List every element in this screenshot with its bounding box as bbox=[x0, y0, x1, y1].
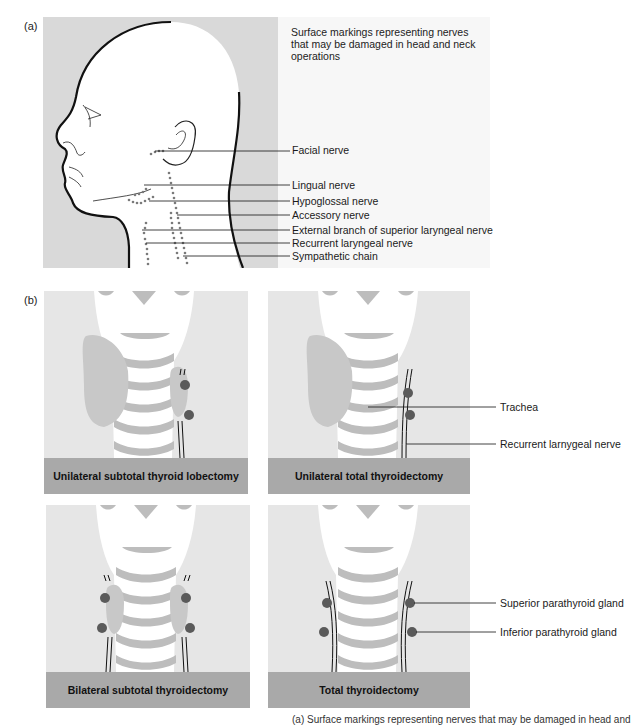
diagram-title-bar: Bilateral subtotal thyroidectomy bbox=[46, 672, 250, 708]
diagram-title-bar: Unilateral total thyroidectomy bbox=[268, 458, 470, 494]
label-lingual-nerve: Lingual nerve bbox=[292, 179, 355, 191]
panel-b-tag: (b) bbox=[24, 294, 37, 306]
panel-a-description: Surface markings representing nerves tha… bbox=[291, 26, 481, 62]
diagram-title-bar: Unilateral subtotal thyroid lobectomy bbox=[44, 458, 248, 494]
diagram-bilateral-subtotal: Bilateral subtotal thyroidectomy bbox=[46, 505, 250, 708]
figure-caption: (a) Surface markings representing nerves… bbox=[292, 714, 631, 725]
diagram-title: Total thyroidectomy bbox=[319, 684, 419, 696]
label-hypoglossal-nerve: Hypoglossal nerve bbox=[292, 195, 378, 207]
panel-a-tag: (a) bbox=[24, 20, 37, 32]
diagram-title: Unilateral total thyroidectomy bbox=[295, 470, 443, 482]
label-recurrent-laryngeal-nerve: Recurrent laryngeal nerve bbox=[292, 237, 413, 249]
diagram-unilateral-total: Unilateral total thyroidectomy bbox=[268, 291, 470, 494]
leader-extensions-top bbox=[470, 291, 496, 458]
diagram-title: Bilateral subtotal thyroidectomy bbox=[68, 684, 228, 696]
diagram-title: Unilateral subtotal thyroid lobectomy bbox=[53, 470, 239, 482]
head-illustration bbox=[43, 17, 278, 268]
label-facial-nerve: Facial nerve bbox=[292, 144, 349, 156]
leader-extensions-bottom bbox=[470, 505, 496, 672]
label-external-branch-superior-laryngeal-nerve: External branch of superior laryngeal ne… bbox=[292, 224, 493, 236]
label-superior-parathyroid: Superior parathyroid gland bbox=[500, 597, 624, 609]
diagram-total: Total thyroidectomy bbox=[268, 505, 470, 708]
label-inferior-parathyroid: Inferior parathyroid gland bbox=[500, 626, 617, 638]
panel-a-leaders bbox=[278, 17, 290, 268]
label-trachea: Trachea bbox=[500, 401, 538, 413]
diagram-title-bar: Total thyroidectomy bbox=[268, 672, 470, 708]
diagram-unilateral-subtotal: Unilateral subtotal thyroid lobectomy bbox=[44, 291, 248, 494]
label-sympathetic-chain: Sympathetic chain bbox=[292, 250, 378, 262]
label-accessory-nerve: Accessory nerve bbox=[292, 209, 370, 221]
label-recurrent-nerve: Recurrent larnygeal nerve bbox=[500, 438, 621, 450]
